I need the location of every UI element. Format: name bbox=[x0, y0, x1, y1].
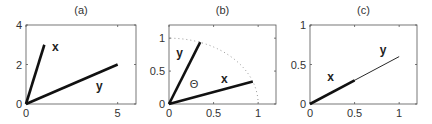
y-tick-label: 2 bbox=[16, 59, 22, 71]
axes-frame bbox=[26, 25, 136, 104]
annotation-x: x bbox=[327, 70, 334, 84]
chart-panel-1: (a)05024xy bbox=[16, 4, 136, 119]
x-tick-label: 5 bbox=[115, 107, 121, 119]
x-tick-label: 0 bbox=[166, 107, 172, 119]
x-tick-label: 0 bbox=[23, 107, 29, 119]
vector-x bbox=[26, 45, 44, 104]
figure: (a)05024xy(b)00.5100.51yxΘ(c)00.5100.51x… bbox=[0, 0, 432, 124]
axes-frame bbox=[310, 25, 417, 104]
y-tick-label: 1 bbox=[300, 19, 306, 31]
y-tick-label: 4 bbox=[16, 19, 22, 31]
y-tick-label: 0 bbox=[159, 98, 165, 110]
chart-title: (b) bbox=[216, 4, 229, 16]
x-tick-label: 0 bbox=[307, 107, 313, 119]
axes-frame bbox=[169, 25, 276, 104]
vector-y bbox=[26, 65, 118, 105]
chart-title: (c) bbox=[357, 4, 370, 16]
chart-panel-2: (b)00.5100.51yxΘ bbox=[150, 4, 276, 119]
x-tick-label: 1 bbox=[396, 107, 402, 119]
annotation-y: y bbox=[380, 43, 387, 57]
chart-panel-3: (c)00.5100.51xy bbox=[291, 4, 417, 119]
annotation-theta: Θ bbox=[190, 78, 199, 90]
y-tick-label: 0 bbox=[300, 98, 306, 110]
x-tick-label: 0.5 bbox=[206, 107, 221, 119]
annotation-x: x bbox=[52, 40, 59, 54]
annotation-y: y bbox=[176, 46, 183, 60]
chart-title: (a) bbox=[74, 4, 87, 16]
y-tick-label: 0.5 bbox=[291, 59, 306, 71]
annotation-x: x bbox=[221, 72, 228, 86]
vector-x bbox=[169, 82, 253, 104]
y-tick-label: 0 bbox=[16, 98, 22, 110]
x-tick-label: 1 bbox=[255, 107, 261, 119]
annotation-y: y bbox=[96, 79, 103, 93]
x-tick-label: 0.5 bbox=[347, 107, 362, 119]
y-tick-label: 1 bbox=[159, 32, 165, 44]
vector-y bbox=[169, 42, 200, 104]
y-tick-label: 0.5 bbox=[150, 65, 165, 77]
